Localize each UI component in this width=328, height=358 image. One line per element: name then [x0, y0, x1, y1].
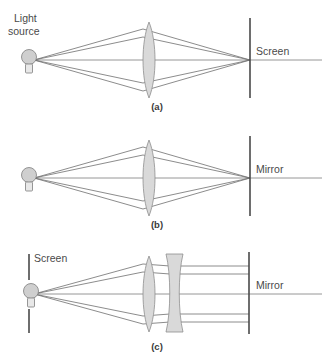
optics-figure: Light source Screen (a): [0, 0, 328, 358]
panel-c-convex-lens: [143, 256, 155, 332]
panel-b-target-label: Mirror: [256, 163, 284, 175]
panel-a-convex-lens: [143, 22, 155, 98]
panel-c-concave-lens: [166, 254, 183, 332]
panel-b: Mirror (b): [0, 118, 328, 236]
panel-c-source-label: Screen: [34, 252, 67, 264]
panel-a-source-label-line1: Light: [14, 12, 37, 24]
panel-b-convex-lens: [143, 140, 155, 216]
panel-a-caption: (a): [151, 101, 163, 112]
light-bulb-icon: [22, 50, 37, 74]
panel-c: Screen Mirror (c): [0, 236, 328, 358]
panel-a-source-label-line2: source: [8, 25, 40, 37]
panel-c-target-label: Mirror: [256, 279, 284, 291]
panel-b-caption: (b): [151, 219, 163, 230]
panel-c-caption: (c): [151, 341, 163, 352]
panel-a-target-label: Screen: [256, 45, 289, 57]
light-bulb-icon: [24, 284, 39, 308]
panel-a: Light source Screen (a): [0, 0, 328, 118]
light-bulb-icon: [22, 168, 37, 192]
